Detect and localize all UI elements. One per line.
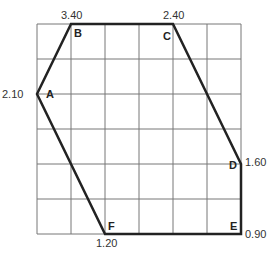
value-label-a: 2.10 bbox=[2, 88, 23, 100]
vertex-label-a: A bbox=[46, 88, 54, 100]
vertex-label-e: E bbox=[230, 220, 237, 232]
value-label-d: 1.60 bbox=[245, 156, 266, 168]
value-label-c: 2.40 bbox=[163, 9, 184, 21]
polygon-diagram: A 2.10 B 3.40 C 2.40 D 1.60 E 0.90 F 1.2… bbox=[0, 0, 279, 258]
vertex-label-b: B bbox=[74, 27, 82, 39]
vertex-label-d: D bbox=[229, 159, 237, 171]
value-label-f: 1.20 bbox=[96, 237, 117, 249]
vertex-label-f: F bbox=[108, 220, 115, 232]
value-label-e: 0.90 bbox=[245, 228, 266, 240]
grid bbox=[37, 24, 241, 234]
vertex-label-c: C bbox=[163, 30, 171, 42]
value-label-b: 3.40 bbox=[61, 9, 82, 21]
